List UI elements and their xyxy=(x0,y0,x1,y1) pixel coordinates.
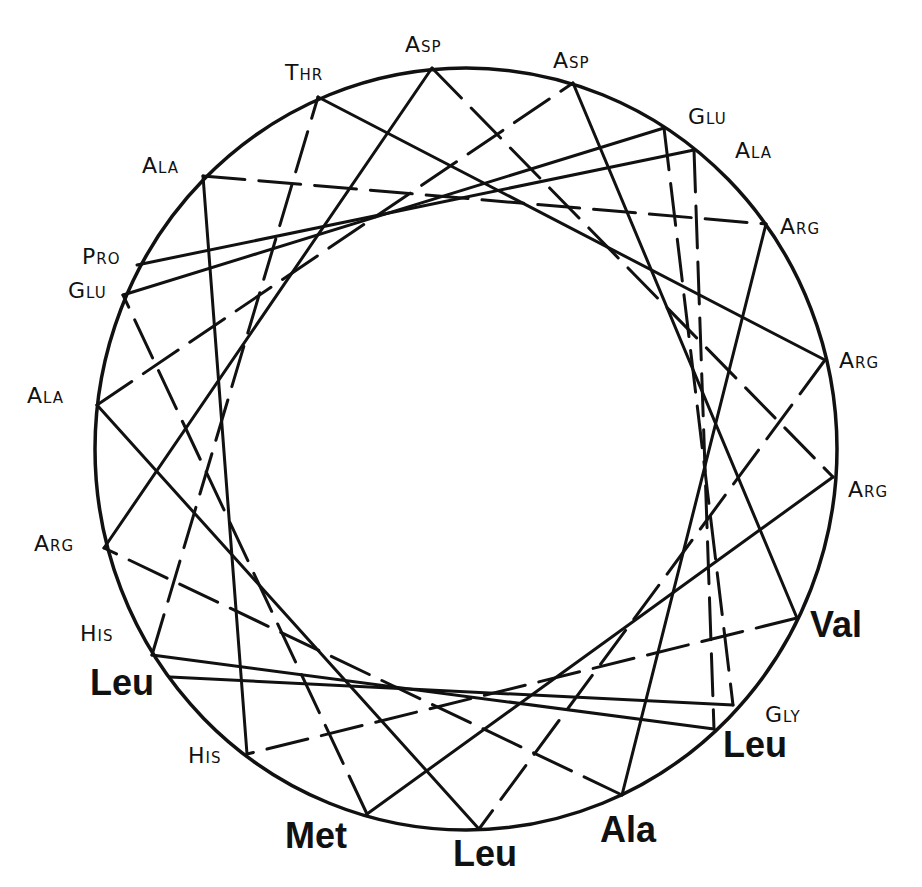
residue-label-gly: Gly xyxy=(765,704,801,726)
residue-label-arg: Arg xyxy=(780,216,820,238)
helix-bond-line xyxy=(123,128,664,295)
residue-label-glu: Glu xyxy=(68,280,107,302)
helix-bond-line xyxy=(152,97,318,655)
residue-label-glu: Glu xyxy=(688,106,727,128)
residue-label-ala: Ala xyxy=(27,385,64,407)
residue-label-met: Met xyxy=(285,818,347,854)
helix-bond-line xyxy=(622,224,766,795)
residue-label-arg: Arg xyxy=(34,533,74,555)
residue-label-ala: Ala xyxy=(142,155,179,177)
helix-bond-line xyxy=(152,655,714,729)
residue-label-arg: Arg xyxy=(848,479,888,501)
residue-label-his: His xyxy=(80,623,114,645)
residue-label-his: His xyxy=(188,745,222,767)
residue-label-asp: Asp xyxy=(553,50,590,72)
helix-bond-line xyxy=(664,128,733,705)
residue-label-leu: Leu xyxy=(453,836,517,872)
residue-label-thr: Thr xyxy=(285,62,323,84)
residue-label-arg: Arg xyxy=(839,350,879,372)
residue-label-ala: Ala xyxy=(600,812,656,848)
residue-label-asp: Asp xyxy=(405,34,442,56)
helix-bond-line xyxy=(97,83,573,405)
helix-bond-line xyxy=(104,68,432,548)
helix-bond-line xyxy=(318,97,825,360)
helix-bond-line xyxy=(573,83,797,618)
helix-connection-lines xyxy=(97,68,833,829)
residue-label-ala: Ala xyxy=(735,140,772,162)
helix-bond-line xyxy=(104,548,622,795)
helix-bond-line xyxy=(97,405,479,829)
residue-label-val: Val xyxy=(810,607,862,643)
residue-label-pro: Pro xyxy=(82,246,121,268)
helix-bond-line xyxy=(432,68,833,477)
residue-label-leu: Leu xyxy=(723,727,787,763)
residue-label-leu: Leu xyxy=(90,665,154,701)
